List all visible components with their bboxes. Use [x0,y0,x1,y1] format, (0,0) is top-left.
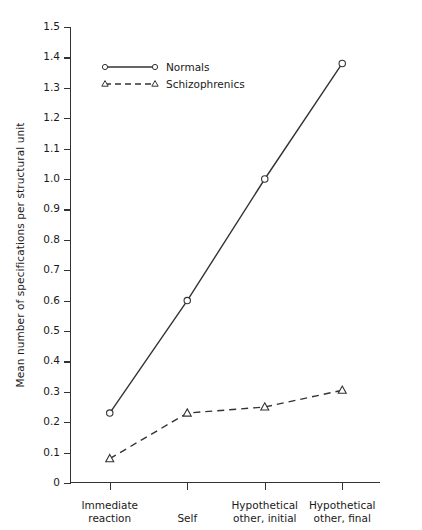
legend-symbol-triangle-dashed-line [100,77,160,91]
legend-item-schizophrenics: Schizophrenics [100,75,245,92]
series-line-schizophrenics [110,390,343,458]
y-tick-mark [64,453,71,454]
y-tick-label: 1.3 [43,81,60,93]
chart-figure: Mean number of specifications per struct… [0,0,422,530]
legend-label-schizophrenics: Schizophrenics [166,78,245,90]
y-tick-mark [64,118,71,119]
data-point-circle [107,410,113,416]
x-tick-label-line: Hypothetical [292,499,392,512]
x-tick-label-line: other, final [292,512,392,525]
y-tick-label: 0.2 [43,415,60,427]
y-tick-label: 0.4 [43,354,60,366]
y-axis-label-container: Mean number of specifications per struct… [16,27,32,483]
y-tick: 1.4 [49,57,71,58]
y-tick-mark [64,88,71,89]
y-tick-mark [64,331,71,332]
x-tick-mark [342,482,343,490]
y-tick-label: 0.3 [43,385,60,397]
plot-area: 00.10.20.30.40.50.60.70.80.91.01.11.21.3… [70,27,380,483]
data-point-triangle [338,386,346,393]
y-tick-label: 0 [53,476,60,488]
data-point-circle [262,176,268,182]
y-tick-label: 1.2 [43,111,60,123]
y-tick: 1.5 [49,27,71,28]
y-tick-label: 1.4 [43,50,60,62]
y-tick-label: 1.5 [43,20,60,32]
series-line-normals [110,63,343,413]
y-tick: 1.3 [49,88,71,89]
y-tick: 1.2 [49,118,71,119]
x-tick-mark [265,482,266,490]
y-tick: 0.8 [49,240,71,241]
y-tick-mark [64,361,71,362]
legend-item-normals: Normals [100,58,245,75]
y-tick: 0.1 [49,453,71,454]
y-tick-mark [64,240,71,241]
y-tick-mark [64,57,71,58]
x-tick-mark [187,482,188,490]
y-axis-label: Mean number of specifications per struct… [14,27,30,483]
series-lines [71,27,381,483]
y-tick-mark [64,149,71,150]
y-tick: 0 [49,483,71,484]
x-tick-label: Hypotheticalother, final [292,499,392,524]
y-tick-mark [64,392,71,393]
data-point-circle [339,60,345,66]
y-tick: 1.1 [49,149,71,150]
y-tick-label: 1.1 [43,142,60,154]
y-tick: 0.5 [49,331,71,332]
y-tick-mark [64,27,71,28]
y-tick-mark [64,301,71,302]
legend-symbol-circle-solid-line [100,60,160,74]
legend-label-normals: Normals [166,61,209,73]
y-tick: 0.9 [49,209,71,210]
chart-legend: Normals Schizophrenics [100,58,245,92]
y-tick: 0.6 [49,301,71,302]
y-tick-label: 0.1 [43,446,60,458]
y-tick-mark [64,483,71,484]
y-tick-label: 0.8 [43,233,60,245]
y-tick: 0.2 [49,422,71,423]
y-tick-label: 0.9 [43,202,60,214]
y-tick-mark [64,209,71,210]
y-tick-label: 1.0 [43,172,60,184]
data-point-circle [184,297,190,303]
data-point-triangle [106,454,114,461]
y-tick: 0.3 [49,392,71,393]
x-tick-label-line: Immediate [60,499,160,512]
y-tick: 1.0 [49,179,71,180]
y-tick-label: 0.7 [43,263,60,275]
y-tick-mark [64,422,71,423]
y-tick: 0.7 [49,270,71,271]
y-tick-label: 0.5 [43,324,60,336]
y-tick-mark [64,270,71,271]
data-point-triangle [183,409,191,416]
x-tick-mark [110,482,111,490]
y-tick-label: 0.6 [43,294,60,306]
y-tick-mark [64,179,71,180]
y-tick: 0.4 [49,361,71,362]
